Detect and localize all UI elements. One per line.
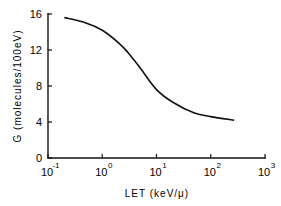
x-tick-exponent: -1 [52,161,60,170]
x-tick-exponent: 1 [162,161,167,170]
y-tick-label: 12 [30,44,42,56]
x-tick-exponent: 2 [217,161,222,170]
data-line [64,18,234,121]
y-axis-label: G (molecules/100eV) [12,30,23,143]
y-tick-label: 16 [30,8,42,20]
x-tick-label: 10 [204,166,216,178]
x-tick-label: 10 [258,166,270,178]
x-tick-label: 10 [149,166,161,178]
y-tick-label: 4 [36,116,42,128]
y-tick-label: 8 [36,80,42,92]
x-tick-exponent: 0 [108,161,113,170]
y-tick-label: 0 [36,152,42,164]
x-tick-label: 10 [95,166,107,178]
x-tick-exponent: 3 [271,161,276,170]
x-tick-label: 10 [41,166,53,178]
chart: 0481216 10-1100101102103 LET (keV/μ) G (… [0,0,281,206]
x-axis-label: LET (keV/μ) [125,188,189,199]
